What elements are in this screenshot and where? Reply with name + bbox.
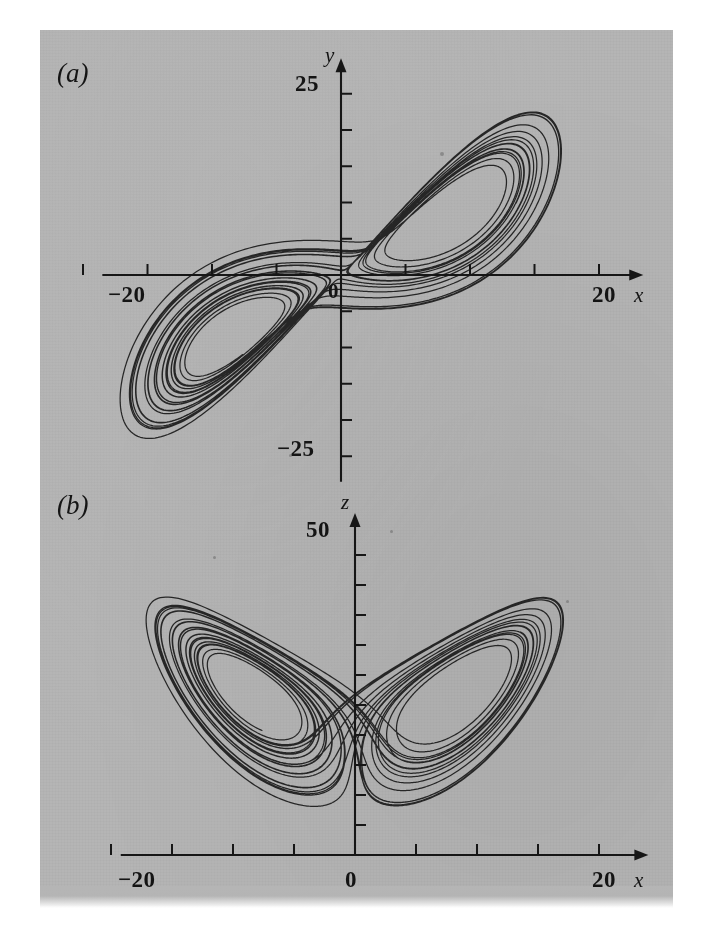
panel-b-plot (0, 470, 707, 910)
panel-b-x-tick-label-neg20: −20 (118, 868, 156, 891)
scan-speck (566, 600, 569, 603)
panel-a-x-axis-arrow (629, 270, 643, 281)
panel-b-x-axis-name: x (634, 870, 643, 891)
scan-speck (289, 454, 292, 457)
panel-b-letter: (b) (57, 492, 88, 519)
panel-a-x-tick-label-neg20: −20 (108, 283, 146, 306)
panel-a-letter: (a) (57, 60, 88, 87)
panel-a-y-axis-arrow (336, 58, 347, 72)
panel-a-y-tick-label-neg25: −25 (277, 437, 315, 460)
panel-b-z-axis-arrow (350, 513, 361, 527)
panel-b-x-tick-label-0: 0 (345, 868, 357, 891)
panel-b-y-axis-name: z (341, 492, 349, 513)
scan-speck (213, 556, 216, 559)
panel-a-origin-label: 0 (328, 281, 339, 302)
scan-speck (390, 530, 393, 533)
panel-a-y-tick-label-25: 25 (295, 72, 319, 95)
panel-a-plot (0, 0, 707, 470)
panel-b-y-tick-label-50: 50 (306, 518, 330, 541)
panel-a-x-axis-name: x (634, 285, 643, 306)
panel-a (0, 0, 707, 470)
panel-b (0, 470, 707, 910)
figure-page: (a) y 25 −25 −20 20 x 0 (b) z 50 −20 0 2… (0, 0, 707, 938)
panel-a-x-tick-label-20: 20 (592, 283, 616, 306)
panel-b-x-tick-label-20: 20 (592, 868, 616, 891)
panel-a-y-axis-name: y (325, 45, 334, 66)
scan-speck (440, 152, 444, 156)
panel-b-x-axis-arrow (634, 850, 648, 861)
